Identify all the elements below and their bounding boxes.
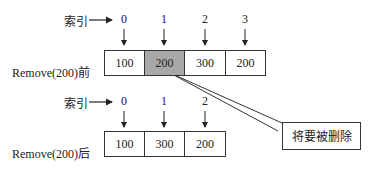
before-cell-0: 100	[104, 50, 145, 76]
after-row-label: Remove(200)后	[12, 144, 90, 162]
after-index-1: 1	[154, 94, 174, 109]
before-cell-3: 200	[225, 50, 266, 76]
after-index-0: 0	[114, 94, 134, 109]
callout-box: 将要被删除	[282, 122, 361, 150]
before-cell-1-highlighted: 200	[144, 50, 185, 76]
after-index-2: 2	[195, 94, 215, 109]
callout-text: 将要被删除	[292, 127, 352, 145]
after-index-label: 索引	[64, 94, 88, 112]
before-index-label: 索引	[64, 12, 88, 30]
after-cell-0: 100	[104, 131, 145, 157]
after-cell-1: 300	[144, 131, 185, 157]
before-index-3: 3	[235, 12, 255, 27]
before-index-2: 2	[195, 12, 215, 27]
before-row-label: Remove(200)前	[12, 63, 90, 81]
after-cell-2: 200	[184, 131, 226, 157]
before-index-0: 0	[114, 12, 134, 27]
before-index-1: 1	[154, 12, 174, 27]
before-cell-2: 300	[184, 50, 226, 76]
